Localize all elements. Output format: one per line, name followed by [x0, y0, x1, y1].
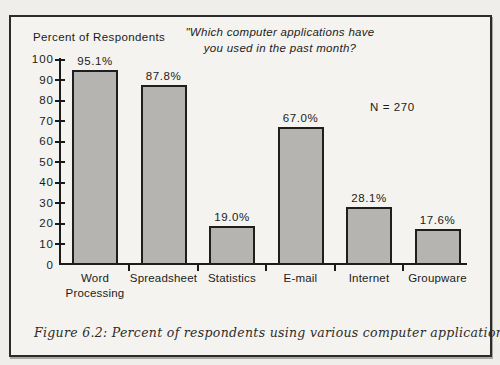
- y-tick-70: [55, 120, 65, 122]
- y-tick-label-20: 20: [18, 216, 54, 231]
- y-tick-80: [55, 100, 65, 102]
- chart-title: "Which computer applications have you us…: [172, 24, 388, 56]
- x-axis-line: [59, 263, 467, 265]
- bar-value-label: 17.6%: [398, 214, 478, 226]
- bar-value-label: 28.1%: [329, 192, 409, 204]
- y-tick-label-30: 30: [18, 196, 54, 211]
- chart-title-line1: "Which computer applications have: [172, 24, 388, 40]
- bar-spreadsheet: [141, 85, 187, 265]
- bar-statistics: [209, 226, 255, 265]
- y-axis-title: Percent of Respondents: [33, 31, 165, 43]
- y-tick-20: [55, 223, 65, 225]
- bar-word-processing: [72, 70, 118, 265]
- sample-size-note: N = 270: [370, 101, 415, 113]
- y-tick-label-70: 70: [18, 114, 54, 129]
- chart-title-line2: you used in the past month?: [172, 40, 388, 56]
- bar-groupware: [415, 229, 461, 265]
- bar-value-label: 19.0%: [192, 211, 272, 223]
- bar-internet: [346, 207, 392, 265]
- y-tick-label-80: 80: [18, 93, 54, 108]
- x-axis-label: Groupware: [390, 271, 486, 286]
- bar-e-mail: [278, 127, 324, 265]
- figure-6-2: Percent of Respondents "Which computer a…: [0, 0, 500, 365]
- y-tick-60: [55, 141, 65, 143]
- y-tick-30: [55, 202, 65, 204]
- y-tick-label-40: 40: [18, 175, 54, 190]
- figure-caption: Figure 6.2: Percent of respondents using…: [34, 325, 500, 340]
- y-tick-label-100: 100: [18, 52, 54, 67]
- y-tick-label-10: 10: [18, 237, 54, 252]
- x-axis-label-line: Groupware: [390, 271, 486, 286]
- y-tick-90: [55, 79, 65, 81]
- bar-value-label: 87.8%: [124, 70, 204, 82]
- y-tick-label-50: 50: [18, 155, 54, 170]
- y-tick-50: [55, 161, 65, 163]
- y-tick-10: [55, 243, 65, 245]
- y-tick-40: [55, 182, 65, 184]
- y-tick-label-90: 90: [18, 73, 54, 88]
- bar-value-label: 67.0%: [261, 112, 341, 124]
- x-axis-label-line: Processing: [47, 286, 143, 301]
- y-tick-label-60: 60: [18, 134, 54, 149]
- bar-value-label: 95.1%: [55, 55, 135, 67]
